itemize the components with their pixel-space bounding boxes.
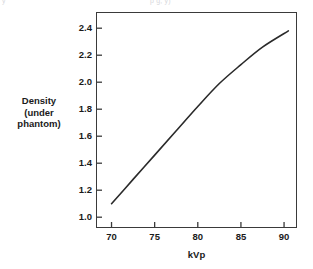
x-tick-label: 80	[183, 232, 213, 242]
x-tick-label: 85	[226, 232, 256, 242]
x-tick-label: 75	[140, 232, 170, 242]
x-tick-label: 90	[269, 232, 299, 242]
x-axis-tick-labels: 7075808590	[0, 0, 313, 269]
figure-density-vs-kvp: y p g, y) Density (under phantom) 1.01.2…	[0, 0, 313, 269]
x-axis-title: kVp	[96, 250, 297, 260]
x-tick-label: 70	[97, 232, 127, 242]
